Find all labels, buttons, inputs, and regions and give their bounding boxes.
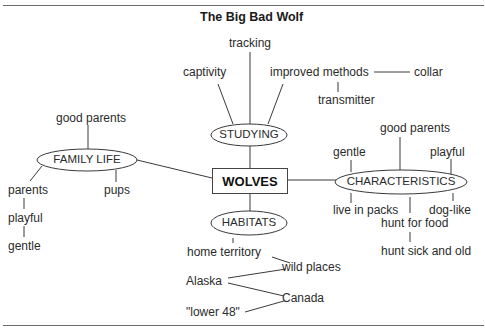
node-tracking: tracking: [229, 36, 271, 50]
node-family-pups: pups: [104, 183, 130, 197]
node-family-gentle: gentle: [8, 239, 41, 253]
node-char-live-in-packs: live in packs: [333, 203, 398, 217]
node-studying: STUDYING: [211, 128, 287, 140]
node-family-good-parents: good parents: [56, 111, 126, 125]
node-family-life: FAMILY LIFE: [37, 153, 137, 165]
node-captivity: captivity: [183, 65, 226, 79]
node-family-parents: parents: [8, 183, 48, 197]
node-char-hunt-sick-and-old: hunt sick and old: [381, 244, 471, 258]
node-char-playful: playful: [430, 145, 465, 159]
node-char-gentle: gentle: [333, 145, 366, 159]
node-canada: Canada: [282, 291, 324, 305]
node-alaska: Alaska: [186, 274, 222, 288]
node-habitats: HABITATS: [211, 216, 287, 228]
diagram-title: The Big Bad Wolf: [200, 10, 303, 24]
node-home-territory: home territory: [187, 245, 261, 259]
node-char-dog-like: dog-like: [429, 203, 471, 217]
node-char-hunt-for-food: hunt for food: [381, 216, 448, 230]
node-wild-places: wild places: [282, 260, 341, 274]
node-char-good-parents: good parents: [380, 121, 450, 135]
node-improved-methods: improved methods: [270, 65, 369, 79]
node-characteristics: CHARACTERISTICS: [335, 175, 467, 187]
central-node-wolves: WOLVES: [212, 168, 288, 194]
node-lower-48: "lower 48": [186, 305, 240, 319]
node-family-playful: playful: [8, 211, 43, 225]
node-transmitter: transmitter: [318, 93, 375, 107]
node-collar: collar: [414, 65, 443, 79]
